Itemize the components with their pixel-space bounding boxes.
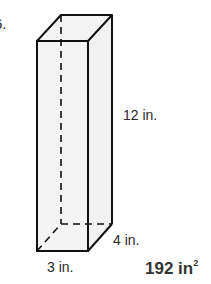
answer-value: 192 in	[145, 259, 193, 278]
answer-exponent: 2	[193, 258, 198, 268]
rectangular-prism-figure	[0, 0, 211, 284]
answer-label: 192 in2	[145, 259, 198, 279]
front-face	[37, 41, 88, 251]
height-label: 12 in.	[123, 107, 157, 123]
width-label: 3 in.	[47, 259, 73, 275]
depth-label: 4 in.	[113, 232, 139, 248]
side-face	[88, 15, 112, 251]
